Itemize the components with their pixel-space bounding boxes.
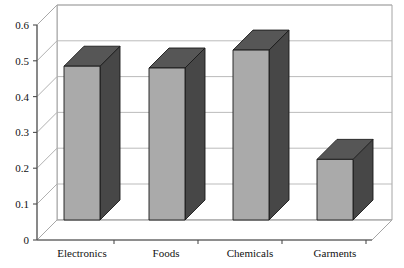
y-tick-label-5: 0.5 xyxy=(15,55,29,67)
bar-foods-front xyxy=(149,68,185,220)
bar-foods[interactable] xyxy=(149,48,205,220)
y-tick-label-3: 0.3 xyxy=(15,126,29,138)
bar-garments[interactable] xyxy=(317,139,373,220)
y-tick-label-1: 0.1 xyxy=(15,198,29,210)
bar-electronics[interactable] xyxy=(64,46,120,220)
bar-chemicals[interactable] xyxy=(233,30,289,220)
bar-electronics-front xyxy=(64,66,100,220)
x-label-garments: Garments xyxy=(314,247,357,259)
floor xyxy=(37,220,392,240)
bar-garments-front xyxy=(317,159,353,220)
bar-electronics-side xyxy=(100,46,120,220)
column-chart-3d: 0.6 0.5 0.4 0.3 0.2 0.1 0 Electronics Fo… xyxy=(0,0,404,268)
x-label-electronics: Electronics xyxy=(57,247,106,259)
y-tick-label-6: 0.6 xyxy=(15,19,29,31)
bar-chemicals-side xyxy=(269,30,289,220)
x-label-foods: Foods xyxy=(153,247,180,259)
y-tick-label-0: 0 xyxy=(24,234,30,246)
x-axis-labels: Electronics Foods Chemicals Garments xyxy=(57,247,356,259)
y-axis-labels: 0.6 0.5 0.4 0.3 0.2 0.1 0 xyxy=(15,19,29,246)
bar-foods-side xyxy=(185,48,205,220)
y-tick-label-4: 0.4 xyxy=(15,91,29,103)
chart-container: 0.6 0.5 0.4 0.3 0.2 0.1 0 Electronics Fo… xyxy=(0,0,404,268)
bar-chemicals-front xyxy=(233,50,269,220)
y-tick-label-2: 0.2 xyxy=(15,162,29,174)
x-label-chemicals: Chemicals xyxy=(227,247,273,259)
